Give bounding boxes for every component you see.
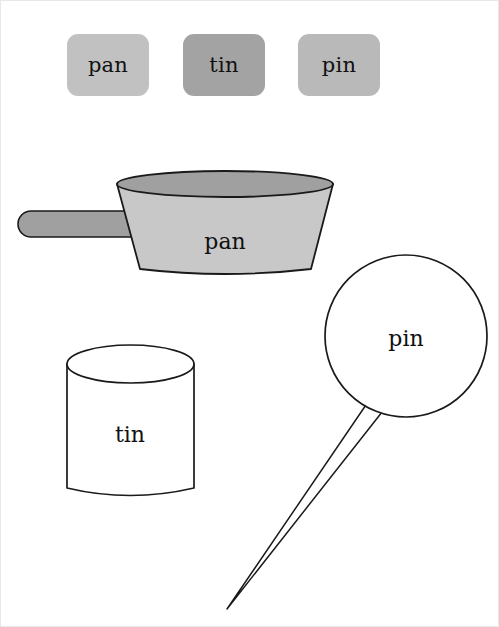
pan-rim [117, 171, 333, 197]
tin-illustration[interactable]: tin [67, 345, 194, 496]
pin-illustration[interactable]: pin [227, 255, 487, 609]
tin-top-ellipse [67, 345, 194, 383]
pan-illustration-label: pan [204, 229, 245, 254]
pin-illustration-label: pin [388, 326, 423, 351]
pan-illustration[interactable]: pan [18, 171, 333, 274]
worksheet-canvas: pan tin pin pan tin pin [0, 0, 499, 627]
illustration-area: pan tin pin [1, 1, 499, 627]
tin-illustration-label: tin [115, 422, 145, 447]
pin-needle [227, 399, 386, 609]
